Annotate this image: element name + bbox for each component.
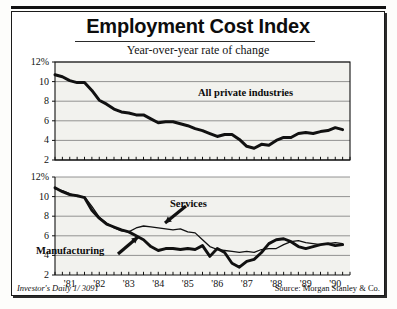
chart-top-ytick-6: 6 (15, 115, 49, 126)
chart-bottom-ytick-8: 8 (15, 210, 49, 221)
chart-top-ytick-8: 8 (15, 95, 49, 106)
annotation-all-private-industries: All private industries (198, 87, 293, 98)
annotation-services: Services (170, 198, 207, 209)
chart-bottom-svg (0, 0, 397, 309)
chart-top-ytick-12: 12% (15, 56, 49, 67)
chart-top-ytick-4: 4 (15, 134, 49, 145)
annotation-manufacturing: Manufacturing (36, 245, 104, 256)
chart-bottom-xtick-85: '85 (173, 278, 203, 289)
chart-bottom-xtick-87: '87 (232, 278, 262, 289)
chart-bottom-ytick-10: 10 (15, 191, 49, 202)
chart-bottom-xtick-84: '84 (143, 278, 173, 289)
footer-attribution: Investor's Daily 1/ 3091 (17, 283, 99, 293)
chart-bottom-manufacturing-services (0, 0, 397, 309)
chart-top-ytick-2: 2 (15, 154, 49, 165)
chart-bottom-xtick-86: '86 (202, 278, 232, 289)
chart-top-ytick-10: 10 (15, 76, 49, 87)
footer-source: Source: Morgan Stanley & Co. (275, 283, 380, 293)
chart-bottom-ytick-2: 2 (15, 269, 49, 280)
chart-bottom-ytick-6: 6 (15, 230, 49, 241)
chart-page: Employment Cost Index Year-over-year rat… (0, 0, 397, 309)
chart-bottom-ytick-12: 12% (15, 171, 49, 182)
chart-bottom-xtick-83: '83 (114, 278, 144, 289)
